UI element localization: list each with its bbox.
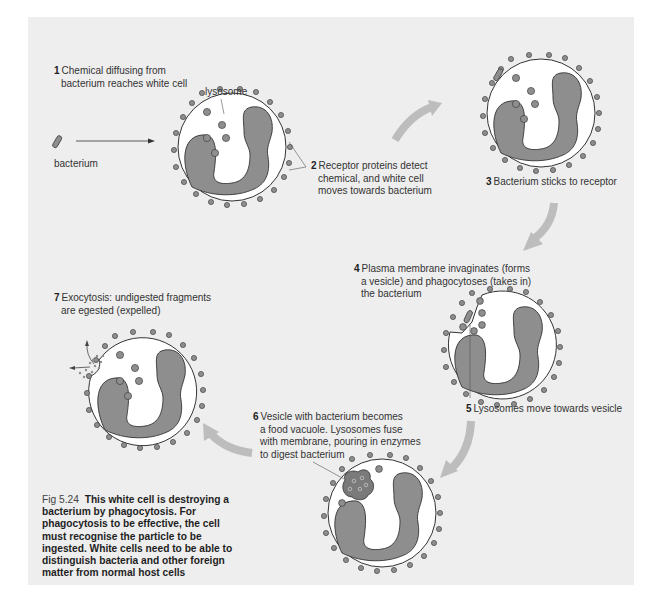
- expulsion-arrows: [69, 340, 94, 370]
- white-cell-4: [441, 286, 562, 407]
- bacterium-free: [52, 135, 63, 149]
- figure-caption: Fig 5.24 This white cell is destroying a…: [42, 494, 242, 579]
- step-6-label: 6Vesicle with bacterium becomes a food v…: [253, 411, 421, 461]
- vacuole-pointer: [313, 462, 344, 479]
- white-cell-7: [84, 329, 205, 450]
- curved-arrow-3-to-4: [523, 203, 554, 251]
- curved-arrow-1-to-3: [395, 100, 442, 140]
- step-4-label: 4Plasma membrane invaginates (forms a ve…: [354, 263, 531, 301]
- diffusion-arrow: [76, 139, 155, 144]
- step-7-label: 7Exocytosis: undigested fragments are eg…: [54, 292, 211, 317]
- step-5-label: 5Lysosomes move towards vesicle: [466, 403, 622, 416]
- white-cell-6: [321, 452, 442, 573]
- figure-number: Fig 5.24: [42, 494, 79, 505]
- curved-arrow-5-to-6: [440, 421, 471, 478]
- step-number: 1: [54, 65, 60, 76]
- step-2-label: 2Receptor proteins detect chemical, and …: [311, 160, 432, 198]
- step-1-label: 1Chemical diffusing from bacterium reach…: [54, 65, 187, 90]
- caption-text: This white cell is destroying a bacteriu…: [42, 494, 232, 578]
- step-3-label: 3Bacterium sticks to receptor: [486, 176, 617, 189]
- curved-arrow-6-to-7: [203, 423, 252, 453]
- receptor-pointer: [289, 142, 306, 170]
- lysosome-label: lysosome: [205, 86, 247, 99]
- bacterium-label: bacterium: [54, 158, 98, 171]
- white-cell-1: [171, 86, 292, 207]
